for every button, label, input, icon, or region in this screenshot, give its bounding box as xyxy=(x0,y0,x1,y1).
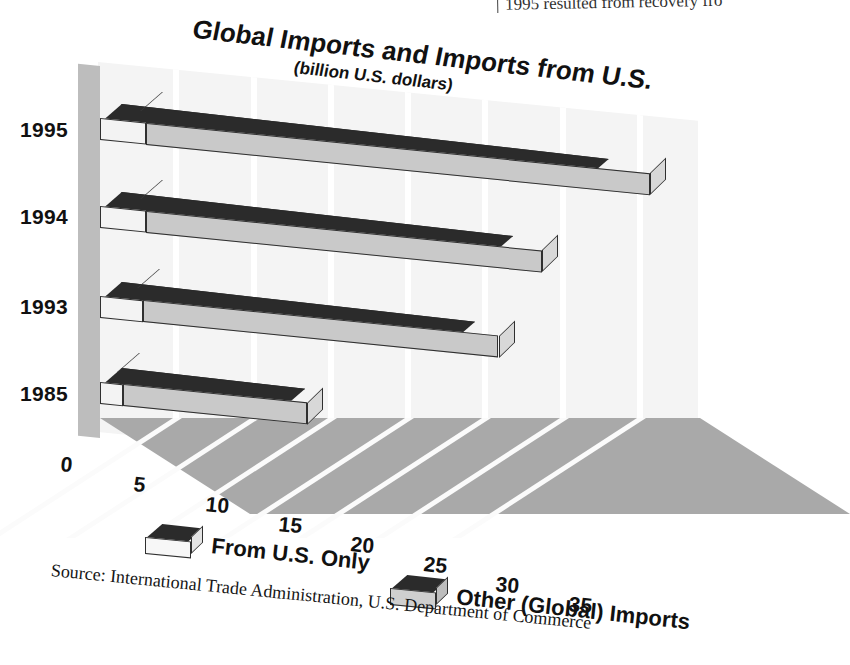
chart-side-wall xyxy=(78,64,100,438)
x-axis-tick-10: 10 xyxy=(204,492,230,518)
bar-1985 xyxy=(100,368,307,398)
bar-1993 xyxy=(100,282,499,312)
x-axis-tick-15: 15 xyxy=(277,512,303,538)
bar-segment-from-us-only xyxy=(100,206,146,233)
y-axis-label-1994: 1994 xyxy=(20,205,68,229)
y-axis-label-1993: 1993 xyxy=(20,295,68,319)
legend-swatch-from-us-only xyxy=(145,524,191,554)
bar-segment-from-us-only xyxy=(100,382,123,406)
y-axis-label-1995: 1995 xyxy=(20,118,68,142)
x-axis-tick-0: 0 xyxy=(59,452,73,477)
bar-segment-from-us-only xyxy=(100,118,146,145)
x-axis-tick-5: 5 xyxy=(132,472,146,497)
bar-1994 xyxy=(100,192,542,222)
y-axis-label-1985: 1985 xyxy=(20,382,68,406)
bar-1995 xyxy=(100,104,650,134)
bar-segment-from-us-only xyxy=(100,296,143,322)
